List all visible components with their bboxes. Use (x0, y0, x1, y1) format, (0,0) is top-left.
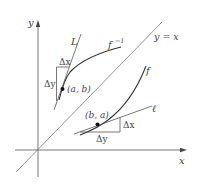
diagonal-label: y = x (153, 31, 179, 42)
point-b-a-label: (b, a) (85, 110, 109, 120)
upper-dy-label: Δy (44, 79, 56, 89)
inverse-function-diagram: y x y = x L f −1 f ℓ Δx Δy (a, b) (b, a)… (0, 0, 200, 185)
x-axis-label: x (179, 155, 185, 166)
x-axis (15, 148, 187, 152)
point-a-b-label: (a, b) (67, 84, 91, 94)
x-axis-arrow-icon (180, 148, 187, 152)
y-axis (36, 20, 40, 177)
f-inverse-superscript: −1 (115, 37, 125, 45)
L-label: L (70, 36, 78, 47)
upper-dx-label: Δx (59, 57, 71, 67)
ell-label: ℓ (152, 103, 156, 114)
y-axis-arrow-icon (36, 20, 40, 27)
point-b-a (96, 123, 100, 127)
f-label: f (145, 65, 152, 76)
point-a-b (61, 87, 65, 91)
f-curve (80, 66, 146, 135)
lower-dy-label: Δy (96, 134, 108, 144)
lower-dx-label: Δx (123, 120, 135, 130)
y-axis-label: y (27, 17, 34, 28)
f-inverse-base: f (107, 39, 114, 50)
